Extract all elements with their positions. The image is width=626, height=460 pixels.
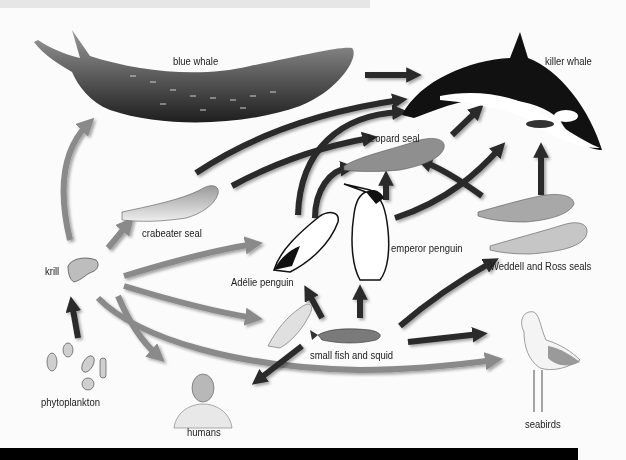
krill-illustration (68, 258, 98, 282)
crabeater-seal-illustration (122, 186, 218, 222)
label-seabirds: seabirds (525, 418, 561, 430)
label-blue-whale: blue whale (173, 55, 218, 67)
label-crabeater-seal: crabeater seal (142, 227, 202, 239)
label-humans: humans (187, 426, 221, 438)
humans-illustration (174, 374, 232, 428)
weddell-ross-seals-illustration (478, 194, 587, 254)
emperor-penguin-illustration (344, 184, 389, 280)
label-krill: krill (45, 265, 59, 277)
label-weddell-ross-seals: Weddell and Ross seals (490, 260, 591, 272)
label-phytoplankton: phytoplankton (41, 396, 100, 408)
arrow-phytoplankton-to-krill (72, 304, 78, 338)
phytoplankton-illustration (47, 343, 106, 390)
label-adelie-penguin: Adélie penguin (231, 276, 294, 288)
label-small-fish-squid: small fish and squid (310, 349, 393, 361)
arrow-fish-to-seabirds (408, 334, 480, 342)
adelie-penguin-illustration (274, 213, 338, 272)
label-killer-whale: killer whale (545, 55, 592, 67)
arrow-krill-to-small-fish (124, 286, 254, 318)
label-emperor-penguin: emperor penguin (391, 242, 463, 254)
bottom-band (0, 448, 578, 460)
blue-whale-illustration (34, 30, 354, 122)
arrow-adelie-to-leopard-seal (315, 168, 348, 218)
food-web-diagram (0, 0, 626, 460)
seabird-illustration (522, 312, 580, 412)
arrow-krill-to-adelie-penguin (124, 244, 254, 276)
arrow-krill-to-blue-whale (64, 124, 88, 240)
arrow-leopard-to-killer-whale (452, 110, 478, 135)
small-fish-squid-illustration (268, 304, 380, 348)
arrow-krill-to-crabeater-seal (108, 224, 128, 248)
killer-whale-illustration (402, 32, 602, 150)
label-leopard-seal: leopard seal (368, 132, 420, 144)
arrow-fish-to-weddell (400, 262, 492, 326)
